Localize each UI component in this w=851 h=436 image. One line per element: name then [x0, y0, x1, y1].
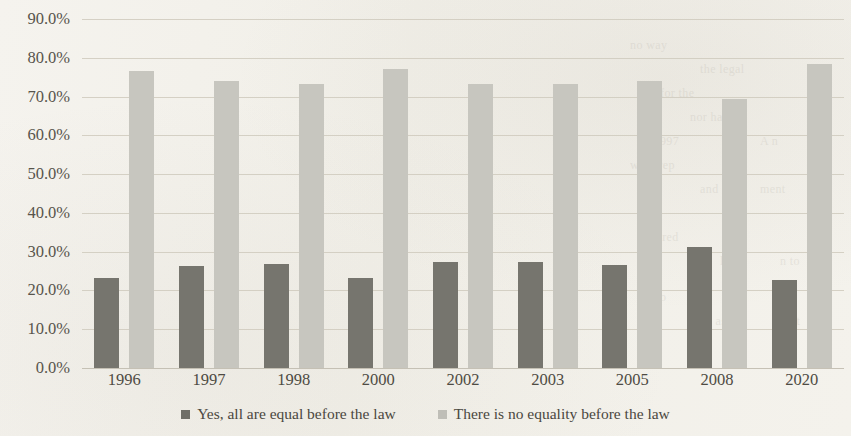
y-axis-tick-label: 20.0%	[27, 280, 70, 300]
chart-legend: Yes, all are equal before the lawThere i…	[0, 405, 851, 423]
bar[interactable]	[348, 278, 373, 368]
x-axis-tick-label: 1998	[251, 370, 336, 396]
y-axis-tick-label: 0.0%	[36, 358, 70, 378]
bar[interactable]	[602, 265, 627, 368]
bar-group	[82, 19, 167, 368]
bar-group	[336, 19, 421, 368]
x-axis-tick-label: 2002	[421, 370, 506, 396]
bar-group	[759, 19, 844, 368]
bar-group	[251, 19, 336, 368]
bar[interactable]	[807, 64, 832, 368]
bar[interactable]	[553, 84, 578, 368]
y-axis-tick-label: 70.0%	[27, 87, 70, 107]
bar-group	[505, 19, 590, 368]
y-axis-tick-label: 30.0%	[27, 242, 70, 262]
bar-chart: 90.0%80.0%70.0%60.0%50.0%40.0%30.0%20.0%…	[0, 0, 851, 436]
legend-swatch-icon	[438, 410, 447, 419]
bar-group	[675, 19, 760, 368]
bar[interactable]	[722, 99, 747, 369]
x-axis-tick-label: 1997	[167, 370, 252, 396]
x-axis: 199619971998200020022003200520082020	[82, 370, 844, 396]
bar[interactable]	[637, 81, 662, 368]
bars-layer	[82, 19, 844, 368]
bar[interactable]	[214, 81, 239, 368]
bar[interactable]	[179, 266, 204, 368]
bar[interactable]	[433, 262, 458, 368]
gridline	[82, 368, 844, 369]
bar[interactable]	[129, 71, 154, 368]
legend-item-label: There is no equality before the law	[454, 405, 670, 423]
y-axis-tick-label: 80.0%	[27, 48, 70, 68]
x-axis-tick-label: 2008	[675, 370, 760, 396]
x-axis-tick-label: 2000	[336, 370, 421, 396]
legend-swatch-icon	[181, 410, 190, 419]
bar[interactable]	[94, 278, 119, 368]
bar[interactable]	[299, 84, 324, 368]
bar[interactable]	[772, 280, 797, 368]
y-axis-tick-label: 60.0%	[27, 125, 70, 145]
y-axis-tick-label: 50.0%	[27, 164, 70, 184]
x-axis-tick-label: 1996	[82, 370, 167, 396]
bar[interactable]	[264, 264, 289, 368]
plot-area	[82, 19, 844, 368]
bar-group	[167, 19, 252, 368]
x-axis-tick-label: 2003	[505, 370, 590, 396]
x-axis-tick-label: 2005	[590, 370, 675, 396]
x-axis-tick-label: 2020	[759, 370, 844, 396]
bar[interactable]	[687, 247, 712, 368]
y-axis-tick-label: 90.0%	[27, 9, 70, 29]
bar-group	[590, 19, 675, 368]
legend-item-label: Yes, all are equal before the law	[197, 405, 396, 423]
y-axis: 90.0%80.0%70.0%60.0%50.0%40.0%30.0%20.0%…	[0, 0, 82, 388]
legend-item[interactable]: Yes, all are equal before the law	[181, 405, 396, 423]
bar[interactable]	[383, 69, 408, 368]
y-axis-tick-label: 10.0%	[27, 319, 70, 339]
bar[interactable]	[518, 262, 543, 368]
y-axis-tick-label: 40.0%	[27, 203, 70, 223]
bar-group	[421, 19, 506, 368]
bar[interactable]	[468, 84, 493, 368]
legend-item[interactable]: There is no equality before the law	[438, 405, 670, 423]
